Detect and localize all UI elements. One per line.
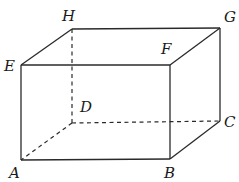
vertex-label-G: G bbox=[224, 8, 236, 26]
edge-FG bbox=[170, 28, 220, 65]
vertex-label-E: E bbox=[3, 57, 15, 75]
hidden-edges bbox=[21, 29, 220, 160]
rectangular-prism-diagram: A B C D E F G H bbox=[0, 0, 239, 182]
hidden-edge-DC bbox=[72, 121, 220, 123]
vertex-label-B: B bbox=[163, 164, 175, 182]
vertex-label-H: H bbox=[61, 7, 76, 25]
edge-BC bbox=[170, 121, 220, 159]
vertex-labels: A B C D E F G H bbox=[3, 7, 236, 182]
vertex-label-A: A bbox=[7, 164, 20, 182]
hidden-edge-DA bbox=[21, 123, 72, 160]
vertex-label-F: F bbox=[160, 40, 172, 58]
vertex-label-D: D bbox=[79, 98, 92, 116]
edge-AB bbox=[21, 159, 170, 160]
vertex-label-C: C bbox=[224, 113, 236, 131]
visible-edges bbox=[21, 28, 220, 160]
edge-GH bbox=[72, 28, 220, 29]
edge-HE bbox=[21, 29, 72, 65]
